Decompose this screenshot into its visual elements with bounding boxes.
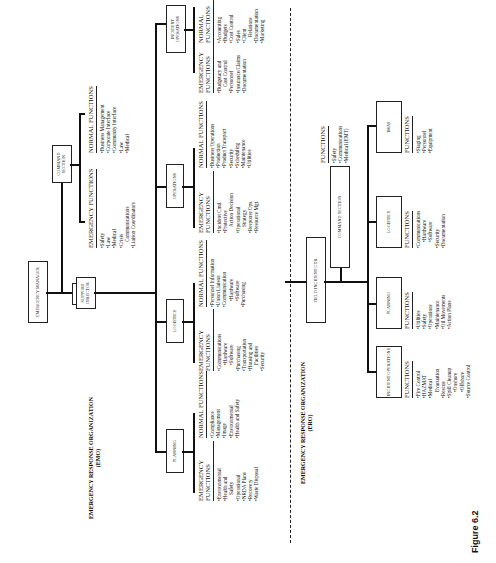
function-item: Medical: [124, 63, 130, 153]
function-item: Waste Disposal: [253, 441, 259, 501]
connector: [61, 170, 63, 294]
function-list: Environmental Health and Safety Operatio…: [216, 441, 260, 501]
emo-operations-normal-functions: NORMAL FUNCTIONS Business Operations Pro…: [198, 92, 253, 168]
field-incident-cdr-box: FIELD INCIDENT CDR.: [306, 237, 326, 323]
emergency-manager-box: EMERGENCY MANAGER: [28, 261, 48, 323]
function-heading: NORMAL FUNCTIONS: [198, 240, 207, 307]
function-heading: NORMAL FUNCTIONS: [88, 86, 97, 153]
function-item: Utilities: [246, 92, 252, 168]
ero-planning-functions: FUNCTIONS Utilities Safety Operations Ma…: [404, 259, 452, 329]
ero-subtitle-text: (ERO): [307, 323, 314, 523]
ero-incident-operations-label: INCIDENT OPERATIONS: [387, 348, 392, 396]
connector: [193, 7, 195, 73]
support-director-label: SUPPORT DIRECTOR: [81, 278, 91, 308]
function-heading: EMERGENCY FUNCTIONS: [198, 43, 214, 93]
function-heading: FUNCTIONS: [404, 361, 413, 398]
function-heading: EMERGENCY FUNCTIONS: [198, 441, 214, 501]
ero-imas-label: IMAS: [387, 122, 392, 133]
ero-command-functions: FUNCTIONS Safety Communications Medical …: [320, 93, 350, 163]
function-list: Business Operations Production Product T…: [209, 92, 253, 168]
ero-command-section-label: COMMAND SECTION: [338, 196, 343, 239]
function-list: Staging Personnel Equipment: [415, 93, 434, 153]
ero-planning-label: PLANNING: [387, 292, 392, 314]
emo-incident-ops-normal-functions: NORMAL FUNCTIONS Accounting Budgets Cost…: [198, 0, 266, 43]
function-heading: EMERGENCY FUNCTIONS: [88, 169, 97, 248]
connector: [79, 221, 85, 223]
section-divider: [290, 8, 291, 543]
function-list: Safety Law Medical Crisis Communications…: [99, 168, 136, 248]
command-section-box: COMMAND SECTION: [52, 145, 72, 183]
function-list: Compliance Management Image Environmenta…: [209, 368, 240, 438]
function-item: Liaison Coordinators: [130, 168, 136, 248]
ero-title: EMERGENCY RESPONSE ORGANIZATION (ERO): [300, 323, 314, 523]
connector: [193, 413, 195, 493]
function-list: Safety Communications Medical (EMT): [331, 93, 350, 163]
connector: [285, 281, 307, 283]
ero-logistics-functions: FUNCTIONS Communications Hardware Softwa…: [404, 168, 446, 248]
emo-subtitle-text: (EMO): [95, 363, 102, 553]
ero-logistics-label: LOGISTICS: [387, 211, 392, 233]
connector: [193, 148, 195, 228]
function-list: Utilities Safety Operations Maintenance …: [415, 259, 452, 329]
function-heading: FUNCTIONS: [404, 211, 413, 248]
ero-imas-box: IMAS: [376, 101, 402, 153]
emo-title-text: EMERGENCY RESPONSE ORGANIZATION: [88, 363, 95, 553]
function-heading: EMERGENCY FUNCTIONS: [198, 309, 214, 371]
connector: [324, 281, 368, 283]
ero-logistics-box: LOGISTICS: [376, 196, 402, 248]
function-heading: FUNCTIONS: [404, 116, 413, 153]
function-list: Personnel Information Union Liaison Comm…: [209, 231, 246, 307]
emo-command-normal-functions: NORMAL FUNCTIONS Business Management Cor…: [88, 63, 130, 153]
emo-incident-ops-emergency-functions: EMERGENCY FUNCTIONS Budgetary and Cost C…: [198, 43, 247, 93]
logistics-label: LOGISTICS: [173, 310, 178, 332]
incident-operations-box: INCIDENT OPERATIONS: [166, 5, 186, 53]
function-heading: NORMAL FUNCTIONS: [198, 371, 207, 438]
emo-title: EMERGENCY RESPONSE ORGANIZATION (EMO): [88, 363, 102, 553]
emo-planning-emergency-functions: EMERGENCY FUNCTIONS Environmental Health…: [198, 441, 259, 501]
connector: [193, 283, 195, 363]
org-chart-canvas: EMERGENCY RESPONSE ORGANIZATION (EMO) EM…: [0, 0, 496, 563]
field-incident-cdr-label: FIELD INCIDENT CDR.: [314, 257, 319, 302]
function-heading: NORMAL FUNCTIONS: [198, 101, 207, 168]
emo-operations-emergency-functions: EMERGENCY FUNCTIONS Incident Cmd. Protec…: [198, 171, 259, 233]
ero-title-text: EMERGENCY RESPONSE ORGANIZATION: [300, 323, 307, 523]
ero-command-section-box: COMMAND SECTION: [330, 166, 350, 268]
connector: [94, 292, 156, 294]
function-list: Business Management Corporate Interface …: [99, 63, 130, 153]
connector: [46, 292, 62, 294]
ero-planning-box: PLANNING: [376, 277, 402, 329]
function-heading: FUNCTIONS: [404, 292, 413, 329]
emo-logistics-normal-functions: NORMAL FUNCTIONS Personnel Information U…: [198, 231, 246, 307]
function-heading: NORMAL FUNCTIONS: [198, 0, 214, 43]
emo-planning-normal-functions: NORMAL FUNCTIONS Compliance Management I…: [198, 368, 240, 438]
function-item: Documentation: [440, 168, 446, 248]
emo-logistics-emergency-functions: EMERGENCY FUNCTIONS Communications Hardw…: [198, 309, 266, 371]
function-list: Fire Control HAZMAT Medical Evacuation R…: [415, 332, 471, 398]
operations-label: OPERATIONS: [173, 173, 178, 200]
function-item: Security: [259, 309, 265, 371]
support-director-box: SUPPORT DIRECTOR: [76, 277, 96, 309]
function-item: Medical (EMT): [343, 93, 349, 163]
function-item: Action Plans: [446, 259, 452, 329]
ero-imas-functions: FUNCTIONS Staging Personnel Equipment: [404, 93, 434, 153]
function-item: Resource Mgt.: [253, 171, 259, 233]
function-item: Source Control: [465, 332, 471, 398]
function-list: Communications Hardware Software Securit…: [415, 168, 446, 248]
connector: [79, 113, 85, 115]
function-item: Purchasing: [240, 231, 246, 307]
planning-label: PLANNING: [173, 440, 178, 462]
function-heading: FUNCTIONS: [320, 126, 329, 163]
function-list: Communications Hardware Software Purchas…: [216, 309, 266, 371]
function-list: Accounting Budgets Cost Control Sales Cl…: [216, 0, 266, 43]
ero-incident-operations-box: INCIDENT OPERATIONS: [376, 346, 402, 398]
function-item: Equipment: [427, 93, 433, 153]
function-item: Marketing: [259, 0, 265, 43]
function-list: Incident Cmd. Protective Action Decision…: [216, 171, 260, 233]
emo-command-emergency-functions: EMERGENCY FUNCTIONS Safety Law Medical C…: [88, 168, 136, 248]
ero-incident-ops-functions: FUNCTIONS Fire Control HAZMAT Medical Ev…: [404, 332, 471, 398]
emergency-manager-label: EMERGENCY MANAGER: [36, 267, 41, 317]
command-section-label: COMMAND SECTION: [57, 146, 67, 182]
function-list: Budgetary and Cost Control Personnel Ins…: [216, 43, 247, 93]
function-item: Documentation: [241, 43, 247, 93]
function-heading: EMERGENCY FUNCTIONS: [198, 171, 214, 233]
